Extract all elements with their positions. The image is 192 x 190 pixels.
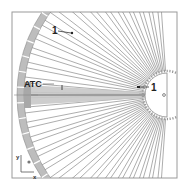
radial-rod-diagram: 1 ATC 1 y x [0, 0, 192, 190]
leader-rim-1-dot [71, 32, 73, 34]
label-hub-1: 1 [151, 82, 157, 93]
label-rim-1: 1 [52, 25, 58, 36]
axis-z-symbol [27, 160, 30, 163]
leader-hub-1-marker [137, 86, 140, 88]
label-atc: ATC [24, 79, 42, 89]
